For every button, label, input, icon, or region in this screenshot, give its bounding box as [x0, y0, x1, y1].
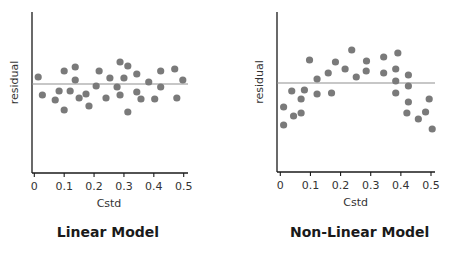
data-point — [363, 57, 370, 64]
data-point — [415, 115, 422, 122]
data-point — [342, 65, 349, 72]
data-point — [297, 95, 304, 102]
data-point — [429, 125, 436, 132]
data-point — [405, 71, 412, 78]
data-point — [328, 89, 335, 96]
data-point — [306, 56, 313, 63]
data-point — [332, 58, 339, 65]
data-point — [363, 67, 370, 74]
data-point — [301, 86, 308, 93]
data-point — [348, 46, 355, 53]
data-point — [394, 49, 401, 56]
data-point — [297, 109, 304, 116]
data-point — [403, 109, 410, 116]
data-point — [380, 53, 387, 60]
data-point — [380, 69, 387, 76]
non-linear-model-title: Non-Linear Model — [290, 224, 422, 240]
x-tick-label: 0 — [277, 179, 284, 192]
data-point — [392, 77, 399, 84]
data-point — [422, 108, 429, 115]
x-axis-title: Cstd — [343, 196, 368, 209]
data-point — [405, 98, 412, 105]
non-linear-model-panel: 00.10.20.30.40.5Cstdresidual Non-Linear … — [0, 0, 451, 256]
x-tick-label: 0.1 — [302, 179, 320, 192]
data-point — [313, 90, 320, 97]
data-point — [392, 65, 399, 72]
data-point — [405, 82, 412, 89]
data-point — [313, 75, 320, 82]
non-linear-model-plot: 00.10.20.30.40.5Cstdresidual — [0, 0, 451, 215]
data-point — [392, 89, 399, 96]
data-point — [353, 73, 360, 80]
data-point — [280, 121, 287, 128]
data-point — [325, 69, 332, 76]
y-axis-title: residual — [253, 60, 266, 104]
x-tick-label: 0.5 — [422, 179, 440, 192]
x-tick-label: 0.4 — [392, 179, 410, 192]
data-point — [288, 87, 295, 94]
x-tick-label: 0.3 — [362, 179, 380, 192]
x-tick-label: 0.2 — [332, 179, 350, 192]
data-point — [290, 112, 297, 119]
data-point — [426, 95, 433, 102]
data-point — [280, 103, 287, 110]
